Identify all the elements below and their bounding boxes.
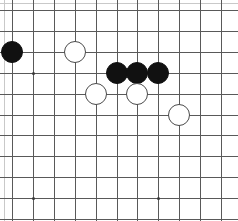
grid-line-horizontal [0, 52, 238, 53]
grid-line-horizontal [0, 156, 238, 157]
white-stone[interactable] [64, 41, 86, 63]
grid-line-horizontal [0, 10, 238, 11]
grid-line-vertical [158, 0, 159, 221]
white-stone[interactable] [168, 104, 190, 126]
grid-line-vertical [96, 0, 97, 221]
star-point [32, 197, 35, 200]
grid-line-horizontal [0, 219, 238, 220]
star-point [157, 197, 160, 200]
black-stone[interactable] [147, 62, 169, 84]
grid-line-vertical [117, 0, 118, 221]
grid-line-vertical [54, 0, 55, 221]
grid-line-vertical [75, 0, 76, 221]
grid-line-horizontal-edge [0, 3, 238, 4]
black-stone[interactable] [1, 41, 23, 63]
grid-line-horizontal [0, 115, 238, 116]
white-stone[interactable] [85, 83, 107, 105]
black-stone[interactable] [106, 62, 128, 84]
grid-line-horizontal [0, 31, 238, 32]
grid-line-vertical [33, 0, 34, 221]
go-board[interactable] [0, 0, 238, 221]
grid-line-vertical-edge [4, 0, 5, 221]
grid-line-vertical [200, 0, 201, 221]
star-point [32, 72, 35, 75]
grid-line-vertical [137, 0, 138, 221]
grid-line-vertical [221, 0, 222, 221]
grid-line-horizontal [0, 135, 238, 136]
grid-line-horizontal [0, 94, 238, 95]
grid-line-vertical [12, 0, 13, 221]
white-stone[interactable] [126, 83, 148, 105]
grid-line-horizontal [0, 198, 238, 199]
black-stone[interactable] [126, 62, 148, 84]
grid-line-horizontal [0, 177, 238, 178]
